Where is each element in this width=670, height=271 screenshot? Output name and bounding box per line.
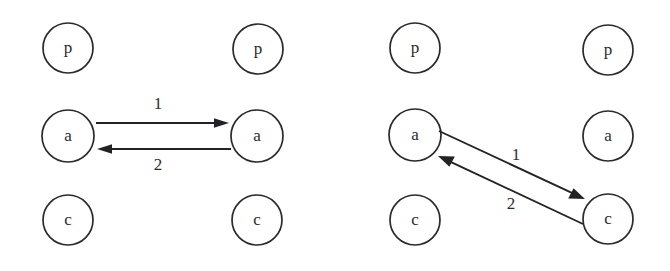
node-label: p <box>254 39 263 58</box>
node-label: p <box>411 38 420 57</box>
node-right-c[interactable]: c <box>232 195 282 245</box>
node-label: p <box>604 40 613 59</box>
node-left-c[interactable]: c <box>43 195 93 245</box>
edge-2-left-panel[interactable]: 2 <box>97 144 231 174</box>
node-right-a[interactable]: a <box>231 110 283 162</box>
diagram-canvas: p a c p a c <box>0 0 670 271</box>
arrowhead-icon <box>438 156 455 167</box>
arrowhead-icon <box>97 144 112 154</box>
edge-2-right-panel[interactable]: 2 <box>438 156 583 224</box>
node-right-c[interactable]: c <box>583 194 633 244</box>
arrowhead-icon <box>568 188 585 199</box>
arrowhead-icon <box>214 118 229 128</box>
node-label: a <box>411 125 419 144</box>
edge-label: 2 <box>507 194 516 213</box>
node-left-a[interactable]: a <box>42 110 94 162</box>
edge-line <box>439 131 574 194</box>
node-label: c <box>604 209 612 228</box>
node-label: a <box>64 126 72 145</box>
node-label: c <box>411 210 419 229</box>
figure-root: p a c p a c <box>0 0 670 271</box>
edge-1-right-panel[interactable]: 1 <box>439 131 585 199</box>
node-left-a[interactable]: a <box>389 109 441 161</box>
node-label: c <box>253 210 261 229</box>
node-right-p[interactable]: p <box>583 25 633 75</box>
node-right-p[interactable]: p <box>233 24 283 74</box>
node-label: a <box>253 126 261 145</box>
node-label: p <box>64 38 73 57</box>
edge-label: 1 <box>512 145 521 164</box>
edge-label: 1 <box>154 94 163 113</box>
node-right-a[interactable]: a <box>583 111 633 161</box>
edge-1-left-panel[interactable]: 1 <box>96 94 229 128</box>
node-label: a <box>604 126 612 145</box>
edge-line <box>450 161 584 224</box>
node-label: c <box>64 210 72 229</box>
panel-left: p a c p a c <box>42 23 283 245</box>
node-left-p[interactable]: p <box>43 23 93 73</box>
node-left-c[interactable]: c <box>390 195 440 245</box>
node-left-p[interactable]: p <box>390 23 440 73</box>
panel-right: p a c p a c <box>389 23 633 245</box>
edge-label: 2 <box>154 155 163 174</box>
